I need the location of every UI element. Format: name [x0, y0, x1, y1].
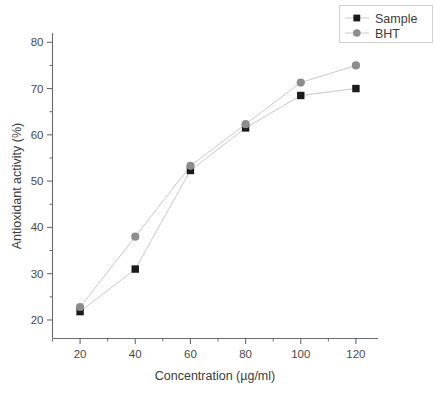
data-point-marker-bht	[241, 120, 249, 128]
legend-marker-bht	[353, 29, 361, 37]
data-point-marker-bht	[131, 233, 139, 241]
y-tick-label: 30	[31, 268, 44, 280]
chart-container: 20304050607080 20406080100120 Concentrat…	[0, 0, 434, 397]
data-point-marker-bht	[352, 61, 360, 69]
data-point-marker-sample	[352, 85, 359, 92]
data-point-marker-bht	[297, 78, 305, 86]
antioxidant-activity-line-chart: 20304050607080 20406080100120 Concentrat…	[0, 0, 434, 397]
data-point-marker-bht	[76, 303, 84, 311]
data-point-marker-sample	[297, 92, 304, 99]
y-tick-label: 70	[31, 83, 44, 95]
chart-background	[0, 0, 434, 397]
y-axis-title: Antioxidant activity (%)	[10, 123, 24, 249]
y-tick-label: 40	[31, 221, 44, 233]
x-tick-label: 20	[74, 348, 87, 360]
y-tick-label: 20	[31, 314, 44, 326]
legend-marker-sample	[353, 15, 360, 22]
x-axis-title: Concentration (µg/ml)	[155, 369, 275, 383]
x-tick-label: 120	[346, 348, 365, 360]
x-tick-label: 60	[184, 348, 197, 360]
x-tick-label: 80	[239, 348, 252, 360]
data-point-marker-sample	[132, 265, 139, 272]
data-point-marker-bht	[186, 162, 194, 170]
y-tick-label: 60	[31, 129, 44, 141]
x-tick-label: 40	[129, 348, 142, 360]
legend: SampleBHT	[340, 6, 433, 43]
x-tick-label: 100	[291, 348, 310, 360]
legend-label-sample: Sample	[375, 12, 417, 26]
y-tick-label: 80	[31, 36, 44, 48]
y-tick-label: 50	[31, 175, 44, 187]
legend-label-bht: BHT	[375, 27, 400, 41]
